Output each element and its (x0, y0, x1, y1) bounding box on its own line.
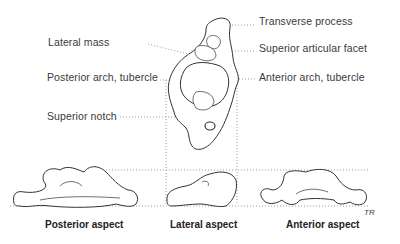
artist-signature: TR (364, 208, 375, 217)
lateral-view-drawing (167, 172, 237, 207)
label-superior-notch: Superior notch (47, 110, 117, 122)
label-transverse-process: Transverse process (259, 15, 353, 27)
anterior-view-drawing (261, 169, 367, 204)
posterior-view-drawing (13, 167, 137, 208)
label-anterior-arch-tubercle: Anterior arch, tubercle (259, 71, 365, 83)
label-superior-articular-facet: Superior articular facet (259, 42, 367, 54)
caption-anterior-aspect: Anterior aspect (286, 219, 359, 230)
caption-lateral-aspect: Lateral aspect (170, 219, 237, 230)
label-lateral-mass: Lateral mass (48, 36, 109, 48)
caption-posterior-aspect: Posterior aspect (45, 219, 123, 230)
label-posterior-arch-tubercle: Posterior arch, tubercle (47, 71, 158, 83)
superior-view-drawing (168, 18, 238, 149)
